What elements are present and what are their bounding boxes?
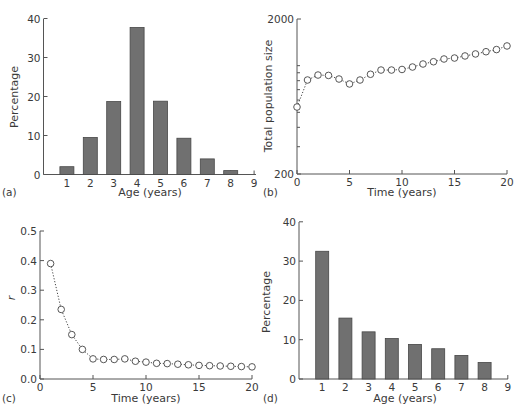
panel-d-label: (d) xyxy=(263,392,278,404)
y-tick-label: 0.2 xyxy=(20,314,37,326)
data-point xyxy=(58,306,65,313)
y-tick-label: 0.1 xyxy=(20,343,37,355)
data-point xyxy=(217,363,224,370)
panel-b-ylabel: Total population size xyxy=(262,39,275,153)
panel-a-plot-area: 010203040123456789 xyxy=(27,13,257,189)
y-tick-label: 200 xyxy=(274,168,294,180)
data-point xyxy=(462,53,469,60)
data-point xyxy=(336,76,343,83)
data-point xyxy=(111,356,118,363)
data-point xyxy=(249,364,256,371)
y-tick-label: 40 xyxy=(283,216,296,228)
data-point xyxy=(175,361,182,368)
x-tick-label: 5 xyxy=(346,176,353,188)
panel-d-bar-chart: 010203040123456789 Age (years) Percentag… xyxy=(260,216,511,405)
x-tick-label: 15 xyxy=(192,381,205,393)
data-point xyxy=(90,356,97,363)
y-tick-label: 10 xyxy=(27,130,40,142)
x-tick-label: 1 xyxy=(319,381,326,393)
panel-c-ylabel: r xyxy=(5,294,18,300)
data-point xyxy=(493,46,500,53)
bar xyxy=(339,318,352,379)
x-tick-label: 3 xyxy=(110,177,117,189)
data-point xyxy=(294,104,301,111)
bar xyxy=(107,102,121,175)
x-tick-label: 0 xyxy=(37,381,44,393)
data-point xyxy=(315,72,322,79)
y-tick-label: 0 xyxy=(34,169,41,181)
y-tick-label: 0 xyxy=(289,373,296,385)
panel-c-label: (c) xyxy=(2,392,16,404)
data-point xyxy=(504,43,511,50)
data-point xyxy=(47,260,54,267)
x-tick-label: 7 xyxy=(204,177,211,189)
data-point xyxy=(409,64,416,71)
y-tick-label: 30 xyxy=(27,52,40,64)
panel-b-label: (b) xyxy=(263,186,278,198)
bar xyxy=(130,27,144,174)
data-point xyxy=(472,51,479,58)
panel-b-line-chart: 200200005101520 Time (years) Total popul… xyxy=(262,13,514,199)
panel-c-plot-area: 0.00.10.20.30.40.505101520 xyxy=(20,225,258,393)
y-tick-label: 20 xyxy=(283,294,296,306)
bar xyxy=(83,137,97,174)
data-point xyxy=(451,55,458,62)
data-point xyxy=(185,361,192,368)
data-point xyxy=(325,72,332,79)
data-point xyxy=(100,356,107,363)
x-tick-label: 20 xyxy=(245,381,258,393)
panel-d-plot-area: 010203040123456789 xyxy=(283,216,512,393)
data-point xyxy=(346,81,353,88)
y-tick-label: 10 xyxy=(283,334,296,346)
y-tick-label: 0.4 xyxy=(20,255,37,267)
y-tick-label: 30 xyxy=(283,255,296,267)
panel-b-xlabel: Time (years) xyxy=(366,186,436,199)
bar xyxy=(154,101,168,174)
data-point xyxy=(79,346,86,353)
bar xyxy=(432,349,445,379)
panel-a-xlabel: Age (years) xyxy=(118,186,182,199)
y-tick-label: 0.0 xyxy=(20,373,37,385)
data-point xyxy=(69,331,76,338)
x-tick-label: 20 xyxy=(500,176,513,188)
data-point xyxy=(388,67,395,74)
data-point xyxy=(143,359,150,366)
x-tick-label: 1 xyxy=(64,177,71,189)
x-tick-label: 7 xyxy=(458,381,465,393)
figure: 010203040123456789 Age (years) Percentag… xyxy=(0,0,521,415)
data-point xyxy=(153,360,160,367)
data-point xyxy=(483,48,490,55)
x-tick-label: 0 xyxy=(294,176,301,188)
x-tick-label: 5 xyxy=(90,381,97,393)
bar xyxy=(316,251,329,379)
data-point xyxy=(228,363,235,370)
panel-b-plot-area: 200200005101520 xyxy=(267,13,513,188)
bar xyxy=(60,167,74,175)
data-point xyxy=(132,358,139,365)
data-point xyxy=(430,58,437,65)
y-tick-label: 0.3 xyxy=(20,284,37,296)
panel-c-line-chart: 0.00.10.20.30.40.505101520 Time (years) … xyxy=(2,225,259,405)
y-tick-label: 40 xyxy=(27,13,40,25)
panel-d-ylabel: Percentage xyxy=(260,271,273,333)
bar xyxy=(478,362,491,379)
x-tick-label: 2 xyxy=(87,177,94,189)
x-tick-label: 15 xyxy=(448,176,461,188)
bar xyxy=(200,159,214,175)
x-tick-label: 3 xyxy=(365,381,372,393)
x-tick-label: 9 xyxy=(504,381,511,393)
data-point xyxy=(441,56,448,63)
data-point xyxy=(420,61,427,68)
x-tick-label: 2 xyxy=(342,381,349,393)
x-tick-label: 8 xyxy=(227,177,234,189)
panel-c-xlabel: Time (years) xyxy=(110,392,180,405)
bar xyxy=(362,332,375,379)
data-point xyxy=(399,66,406,73)
data-point xyxy=(164,360,171,367)
bar xyxy=(385,339,398,379)
bar xyxy=(455,355,468,379)
data-point xyxy=(367,71,374,78)
bar xyxy=(224,171,238,175)
y-tick-label: 0.5 xyxy=(20,225,37,237)
data-point xyxy=(196,362,203,369)
